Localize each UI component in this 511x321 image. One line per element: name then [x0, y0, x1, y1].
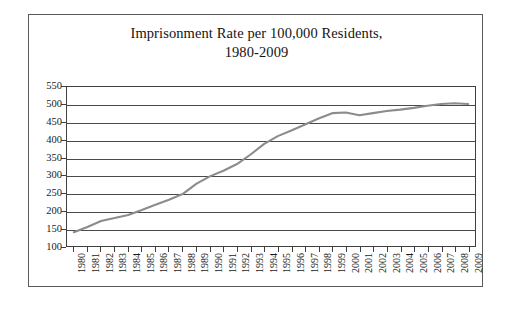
- x-axis-tick-mark: [387, 247, 388, 252]
- x-axis-tick-label: 1980: [77, 253, 87, 273]
- x-axis-tick-mark: [251, 247, 252, 252]
- x-axis-tick-label: 1992: [241, 253, 251, 273]
- x-axis-tick-mark: [196, 247, 197, 252]
- x-axis-tick-label: 2004: [405, 253, 415, 273]
- y-axis-tick-label: 150: [28, 224, 62, 235]
- y-axis-tick-label: 300: [28, 170, 62, 181]
- x-axis-tick-label: 1986: [159, 253, 169, 273]
- x-axis-tick-mark: [168, 247, 169, 252]
- y-axis-tick-label: 200: [28, 206, 62, 217]
- y-axis-tick-label: 250: [28, 188, 62, 199]
- x-axis-tick-label: 1982: [105, 253, 115, 273]
- x-axis-tick-label: 2003: [392, 253, 402, 273]
- x-axis-tick-mark: [73, 247, 74, 252]
- chart-title-line-2: 1980-2009: [29, 43, 484, 62]
- x-axis-tick-mark: [210, 247, 211, 252]
- y-axis-tick-labels: 550500450400350300250200150100: [28, 86, 62, 247]
- y-axis-tick-label: 350: [28, 153, 62, 164]
- x-axis-tick-mark: [332, 247, 333, 252]
- series-line-imprisonment-rate: [67, 87, 475, 246]
- x-axis-tick-mark: [428, 247, 429, 252]
- x-axis-tick-label: 1989: [200, 253, 210, 273]
- chart-title-line-1: Imprisonment Rate per 100,000 Residents,: [130, 25, 382, 41]
- x-axis-tick-label: 1997: [310, 253, 320, 273]
- x-axis-tick-label: 2009: [474, 253, 484, 273]
- x-axis-tick-mark: [264, 247, 265, 252]
- x-axis-tick-label: 1990: [214, 253, 224, 273]
- x-axis-tick-mark: [100, 247, 101, 252]
- x-axis-tick-mark: [373, 247, 374, 252]
- x-axis-tick-label: 2008: [460, 253, 470, 273]
- y-axis-tick-label: 500: [28, 99, 62, 110]
- x-axis-tick-label: 1987: [173, 253, 183, 273]
- x-axis-tick-marks: [66, 247, 476, 252]
- x-axis-tick-mark: [469, 247, 470, 252]
- x-axis-tick-label: 2001: [364, 253, 374, 273]
- x-axis-tick-label: 1985: [146, 253, 156, 273]
- x-axis-tick-label: 1988: [187, 253, 197, 273]
- x-axis-tick-label: 1996: [296, 253, 306, 273]
- x-axis-tick-label: 1993: [255, 253, 265, 273]
- x-axis-tick-mark: [319, 247, 320, 252]
- x-axis-tick-label: 1983: [118, 253, 128, 273]
- x-axis-tick-mark: [278, 247, 279, 252]
- plot-area: [66, 86, 476, 247]
- x-axis-tick-label: 1984: [132, 253, 142, 273]
- x-axis-tick-mark: [455, 247, 456, 252]
- x-axis-tick-label: 2006: [433, 253, 443, 273]
- x-axis-tick-mark: [414, 247, 415, 252]
- x-axis-tick-label: 2007: [446, 253, 456, 273]
- x-axis-tick-label: 1998: [323, 253, 333, 273]
- x-axis-tick-label: 1981: [91, 253, 101, 273]
- x-axis-tick-label: 1994: [269, 253, 279, 273]
- chart-title: Imprisonment Rate per 100,000 Residents,…: [29, 24, 484, 62]
- x-axis-tick-mark: [223, 247, 224, 252]
- x-axis-tick-label: 2000: [351, 253, 361, 273]
- y-axis-tick-label: 400: [28, 135, 62, 146]
- y-axis-tick-label: 100: [28, 242, 62, 253]
- chart-figure: Imprisonment Rate per 100,000 Residents,…: [28, 14, 483, 287]
- x-axis-tick-mark: [360, 247, 361, 252]
- y-axis-tick-label: 550: [28, 81, 62, 92]
- x-axis-tick-label: 1999: [337, 253, 347, 273]
- x-axis-tick-label: 2005: [419, 253, 429, 273]
- x-axis-tick-mark: [182, 247, 183, 252]
- x-axis-tick-mark: [346, 247, 347, 252]
- x-axis-tick-mark: [401, 247, 402, 252]
- x-axis-tick-mark: [114, 247, 115, 252]
- x-axis-tick-mark: [305, 247, 306, 252]
- y-axis-tick-label: 450: [28, 117, 62, 128]
- x-axis-tick-labels: 1980198119821983198419851986198719881989…: [66, 253, 476, 287]
- x-axis-tick-mark: [292, 247, 293, 252]
- x-axis-tick-mark: [237, 247, 238, 252]
- x-axis-tick-mark: [155, 247, 156, 252]
- x-axis-tick-label: 2002: [378, 253, 388, 273]
- x-axis-tick-mark: [141, 247, 142, 252]
- x-axis-tick-mark: [442, 247, 443, 252]
- x-axis-tick-label: 1991: [228, 253, 238, 273]
- x-axis-tick-mark: [128, 247, 129, 252]
- x-axis-tick-mark: [87, 247, 88, 252]
- x-axis-tick-label: 1995: [282, 253, 292, 273]
